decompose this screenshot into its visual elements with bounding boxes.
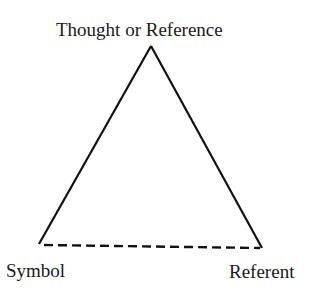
node-label-referent: Referent <box>229 262 294 281</box>
edge-thought-to-referent <box>151 46 262 248</box>
edge-symbol-to-referent-dashed <box>44 245 260 248</box>
node-label-symbol: Symbol <box>6 261 65 280</box>
edge-symbol-to-thought <box>39 46 151 244</box>
triangle-graphic <box>0 0 320 291</box>
node-label-thought-or-reference: Thought or Reference <box>56 20 223 39</box>
